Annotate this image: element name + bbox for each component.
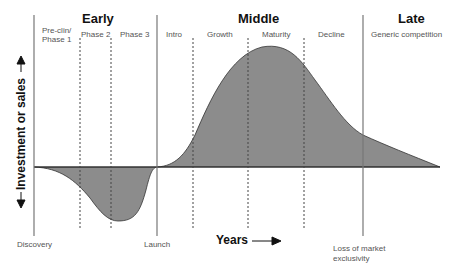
arrow-down-icon — [17, 200, 25, 208]
phase-intro: Intro — [166, 30, 182, 40]
x-axis-label: Years — [216, 233, 248, 247]
sales-area — [157, 46, 440, 167]
arrow-up-icon — [17, 56, 25, 64]
stage-middle: Middle — [238, 11, 279, 26]
milestone-launch: Launch — [144, 240, 170, 250]
x-axis-arrow — [252, 237, 281, 245]
stage-early: Early — [82, 11, 114, 26]
milestone-discovery: Discovery — [17, 240, 52, 250]
phase-preclin-2: Phase 1 — [42, 35, 71, 45]
phase-generic: Generic competition — [371, 30, 442, 40]
milestone-loss-1: Loss of market — [333, 244, 385, 254]
phase-2: Phase 2 — [81, 30, 110, 40]
stage-late: Late — [398, 11, 425, 26]
phase-3: Phase 3 — [120, 30, 149, 40]
milestone-loss-2: exclusivity — [333, 254, 369, 264]
phase-growth: Growth — [207, 30, 233, 40]
investment-area — [34, 167, 157, 221]
y-axis-label: Investment or sales — [14, 78, 28, 190]
phase-decline: Decline — [318, 30, 345, 40]
phase-maturity: Maturity — [262, 30, 290, 40]
arrow-right-icon — [272, 237, 281, 245]
